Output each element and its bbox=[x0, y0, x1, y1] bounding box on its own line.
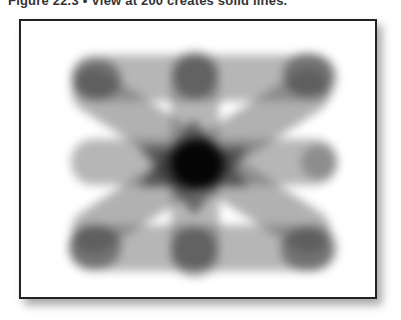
cap-bottom-right bbox=[281, 227, 333, 271]
cap-top-left bbox=[73, 59, 121, 99]
cap-bottom-left bbox=[69, 225, 121, 269]
blurred-star-artwork bbox=[21, 21, 375, 297]
cap-bottom-center bbox=[171, 227, 217, 271]
cap-middle-right bbox=[301, 145, 337, 179]
cap-top-right bbox=[283, 53, 333, 97]
dark-core bbox=[171, 139, 223, 189]
figure-caption: Figure 22.3 • View at 200 creates solid … bbox=[8, 0, 287, 8]
cap-top-center bbox=[173, 55, 217, 99]
figure-frame bbox=[19, 19, 377, 299]
